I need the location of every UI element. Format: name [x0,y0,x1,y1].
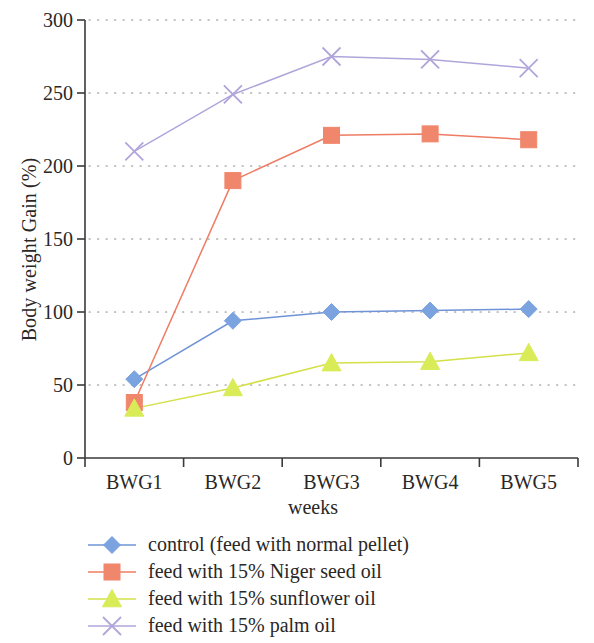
y-axis-tick-label: 250 [15,83,73,103]
data-point-marker [224,312,241,329]
data-point-marker [422,126,438,142]
data-point-marker [322,354,341,371]
chart-legend: control (feed with normal pellet)feed wi… [0,531,594,639]
x-axis-tick-label: BWG5 [479,472,578,492]
data-point-marker [323,304,340,321]
data-point-marker [519,343,538,360]
x-axis-tick-label: BWG1 [85,472,184,492]
x-axis-title-text: weeks [288,496,338,518]
y-axis-tick-label: 0 [15,448,73,468]
x-axis-title: weeks [0,496,594,519]
diamond-marker-icon [84,533,140,557]
y-axis-tick-label: 100 [15,302,73,322]
legend-item[interactable]: feed with 15% sunflower oil [0,585,594,612]
x-axis-tick-label: BWG3 [282,472,381,492]
data-point-marker [520,301,537,318]
legend-item[interactable]: feed with 15% Niger seed oil [0,558,594,585]
cross-x-marker-icon [84,614,140,638]
x-axis-tick-label: BWG2 [184,472,283,492]
chart-canvas [0,0,594,530]
square-marker-icon [84,560,140,584]
y-axis-title: Body weight Gain (%) [18,100,41,400]
data-point-marker [125,142,143,160]
y-axis-tick-label: 150 [15,229,73,249]
legend-item-label: feed with 15% sunflower oil [140,587,376,610]
legend-item[interactable]: feed with 15% palm oil [0,612,594,639]
plot-area: Body weight Gain (%) 300250200150100500B… [0,0,594,530]
data-point-marker [225,173,241,189]
legend-item-label: feed with 15% Niger seed oil [140,560,382,583]
y-axis-tick-label: 200 [15,156,73,176]
data-point-marker [224,85,242,103]
data-point-marker [521,132,537,148]
data-point-marker [223,378,242,395]
y-axis-tick-label: 300 [15,10,73,30]
legend-item-label: control (feed with normal pellet) [140,533,409,556]
chart-figure: Body weight Gain (%) 300250200150100500B… [0,0,594,643]
legend-item-label: feed with 15% palm oil [140,614,336,637]
y-axis-tick-label: 50 [15,375,73,395]
data-point-marker [422,302,439,319]
data-point-marker [324,127,340,143]
legend-item[interactable]: control (feed with normal pellet) [0,531,594,558]
triangle-marker-icon [84,587,140,611]
x-axis-tick-label: BWG4 [381,472,480,492]
